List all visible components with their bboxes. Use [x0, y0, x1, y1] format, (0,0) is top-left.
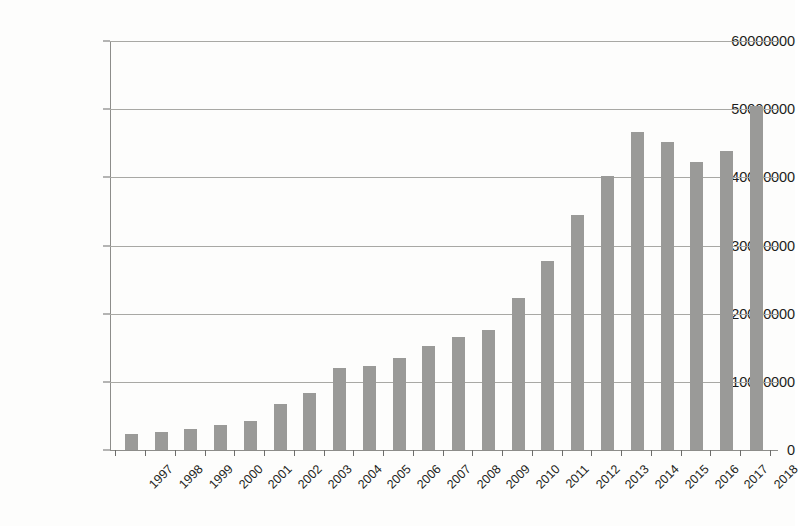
x-axis-tick-mark: [591, 450, 592, 456]
x-axis-label-1999: 1999: [206, 462, 236, 492]
x-axis-label-2001: 2001: [265, 462, 295, 492]
x-axis-label-2012: 2012: [593, 462, 623, 492]
x-axis-tick-mark: [234, 450, 235, 456]
x-axis-tick-mark: [324, 450, 325, 456]
x-axis-label-2008: 2008: [474, 462, 504, 492]
x-axis-label-1997: 1997: [146, 462, 176, 492]
bar-2017: [720, 151, 733, 450]
x-axis-label-2005: 2005: [384, 462, 414, 492]
x-axis-tick-mark: [770, 450, 771, 456]
y-axis-tick-mark: [103, 450, 110, 451]
bar-2001: [244, 421, 257, 450]
x-axis-label-2010: 2010: [533, 462, 563, 492]
x-axis-tick-mark: [502, 450, 503, 456]
x-axis-tick-mark: [621, 450, 622, 456]
x-axis-label-2015: 2015: [682, 462, 712, 492]
x-axis-tick-mark: [681, 450, 682, 456]
x-axis-tick-mark: [413, 450, 414, 456]
x-axis-label-2011: 2011: [563, 462, 592, 491]
bar-2010: [512, 298, 525, 450]
x-axis-tick-mark: [532, 450, 533, 456]
bar-2015: [661, 142, 674, 450]
y-axis-tick-mark: [103, 41, 110, 42]
x-axis-tick-mark: [264, 450, 265, 456]
x-axis-tick-mark: [145, 450, 146, 456]
bar-2002: [274, 404, 287, 450]
x-axis-label-2013: 2013: [622, 462, 652, 492]
bar-1998: [155, 432, 168, 450]
y-axis-tick-mark: [103, 109, 110, 110]
bar-2004: [333, 368, 346, 450]
x-axis-tick-mark: [710, 450, 711, 456]
gridline-0: [110, 450, 778, 451]
bar-2012: [571, 215, 584, 450]
x-axis-label-2017: 2017: [742, 462, 772, 492]
x-axis-label-2014: 2014: [652, 462, 682, 492]
bar-2006: [393, 358, 406, 450]
bar-series: [110, 41, 778, 450]
y-axis-tick-mark: [103, 381, 110, 382]
bar-2011: [541, 261, 554, 451]
x-axis-label-2007: 2007: [444, 462, 474, 492]
x-axis-tick-mark: [383, 450, 384, 456]
x-axis-tick-mark: [175, 450, 176, 456]
bar-2005: [363, 366, 376, 450]
x-axis-label-2018: 2018: [771, 462, 801, 492]
bar-2008: [452, 337, 465, 450]
x-axis-tick-mark: [353, 450, 354, 456]
y-axis-tick-mark: [103, 177, 110, 178]
x-axis-label-2000: 2000: [236, 462, 266, 492]
x-axis-tick-mark: [651, 450, 652, 456]
bar-2013: [601, 176, 614, 450]
bar-2007: [422, 346, 435, 450]
bar-1997: [125, 434, 138, 450]
x-axis-label-2004: 2004: [355, 462, 385, 492]
bar-2018: [750, 106, 763, 450]
bar-1999: [184, 429, 197, 450]
x-axis-label-1998: 1998: [176, 462, 206, 492]
x-axis-tick-mark: [115, 450, 116, 456]
bar-2009: [482, 330, 495, 450]
x-axis-tick-mark: [472, 450, 473, 456]
x-axis-tick-mark: [205, 450, 206, 456]
x-axis-tick-mark: [294, 450, 295, 456]
x-axis-tick-mark: [562, 450, 563, 456]
x-axis-tick-mark: [443, 450, 444, 456]
bar-2003: [303, 393, 316, 450]
bar-2016: [690, 162, 703, 450]
y-axis-tick-mark: [103, 245, 110, 246]
x-axis-label-2002: 2002: [295, 462, 325, 492]
bar-2000: [214, 425, 227, 450]
x-axis-tick-mark: [740, 450, 741, 456]
x-axis-label-2003: 2003: [325, 462, 355, 492]
y-axis-tick-mark: [103, 313, 110, 314]
x-axis-label-2006: 2006: [414, 462, 444, 492]
x-axis-label-2016: 2016: [712, 462, 742, 492]
x-axis-label-2009: 2009: [503, 462, 533, 492]
bar-2014: [631, 132, 644, 450]
